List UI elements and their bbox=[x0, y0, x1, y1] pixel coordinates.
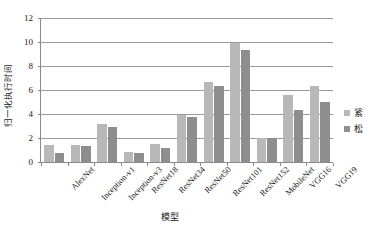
x-axis-title-text: 模型 bbox=[161, 212, 179, 222]
bar bbox=[55, 153, 65, 162]
bar-group bbox=[174, 18, 201, 162]
bar bbox=[150, 144, 160, 162]
y-axis-title: 归一化执行时间 bbox=[1, 40, 15, 150]
legend-swatch-icon bbox=[344, 126, 350, 132]
bars-layer bbox=[41, 18, 333, 162]
bar bbox=[44, 145, 54, 162]
legend-item: 紧 bbox=[344, 105, 380, 121]
legend-swatch-icon bbox=[344, 110, 350, 116]
legend: 紧松 bbox=[344, 105, 380, 137]
x-axis-tick-label: AlexNet bbox=[69, 165, 96, 192]
x-axis-tick-labels: AlexNetInception-v1Inception-v3ResNet18R… bbox=[40, 163, 332, 213]
bar bbox=[320, 102, 330, 162]
bar bbox=[241, 50, 251, 162]
x-axis-tick-label: VGG19 bbox=[334, 165, 359, 190]
bar bbox=[81, 146, 91, 162]
bar-chart: 归一化执行时间 024681012 AlexNetInception-v1Inc… bbox=[0, 0, 381, 235]
plot-area bbox=[40, 18, 333, 163]
y-axis-tick-label: 12 bbox=[24, 14, 33, 23]
x-axis-tickmark bbox=[333, 163, 334, 166]
bar-group bbox=[147, 18, 174, 162]
bar-group bbox=[306, 18, 333, 162]
y-axis-tick-label: 10 bbox=[24, 38, 33, 47]
bar bbox=[294, 110, 304, 162]
legend-item-label: 松 bbox=[354, 125, 363, 134]
bar bbox=[204, 82, 214, 162]
bar-group bbox=[94, 18, 121, 162]
bar bbox=[257, 138, 267, 162]
bar bbox=[161, 148, 171, 162]
y-axis-tick-label: 8 bbox=[29, 62, 34, 71]
bar-group bbox=[41, 18, 68, 162]
x-axis-tick-label: ResNet50 bbox=[203, 165, 233, 195]
bar bbox=[124, 152, 134, 162]
y-axis-title-text: 归一化执行时间 bbox=[4, 64, 13, 127]
y-axis-tick-label: 6 bbox=[29, 86, 34, 95]
y-axis-tick-label: 2 bbox=[29, 134, 34, 143]
y-axis-tick-labels: 024681012 bbox=[14, 13, 36, 167]
bar bbox=[177, 115, 187, 162]
bar-group bbox=[200, 18, 227, 162]
bar-group bbox=[253, 18, 280, 162]
bar bbox=[108, 127, 118, 162]
bar bbox=[134, 153, 144, 162]
bar bbox=[97, 124, 107, 162]
bar bbox=[283, 95, 293, 162]
bar bbox=[187, 117, 197, 162]
bar bbox=[214, 86, 224, 162]
bar bbox=[267, 138, 277, 162]
bar bbox=[71, 145, 81, 162]
x-axis-tick-label: ResNet34 bbox=[177, 165, 207, 195]
x-axis-title: 模型 bbox=[130, 212, 210, 222]
bar-group bbox=[68, 18, 95, 162]
bar bbox=[310, 86, 320, 162]
legend-item-label: 紧 bbox=[354, 109, 363, 118]
legend-item: 松 bbox=[344, 121, 380, 137]
bar-group bbox=[227, 18, 254, 162]
bar-group bbox=[121, 18, 148, 162]
bar-group bbox=[280, 18, 307, 162]
bar bbox=[230, 43, 240, 162]
y-axis-tick-label: 0 bbox=[29, 158, 34, 167]
y-axis-tick-label: 4 bbox=[29, 110, 34, 119]
